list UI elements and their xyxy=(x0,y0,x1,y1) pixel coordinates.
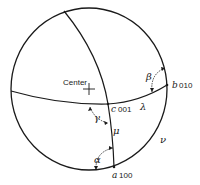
lambda-label: λ xyxy=(139,101,146,112)
pole-c-dot xyxy=(107,103,110,106)
center-label: Center xyxy=(63,78,87,87)
nu-label: ν xyxy=(160,134,166,145)
gamma-arrowhead-icon xyxy=(104,121,108,125)
pole-a-index-label: 100 xyxy=(119,171,133,180)
gamma-label: γ xyxy=(94,112,100,123)
pole-a-dot xyxy=(113,166,116,169)
stereogram: Center c 001 b 010 a 100 γ β α λ μ ν xyxy=(0,0,200,185)
pole-b-dot xyxy=(166,84,169,87)
pole-c-axis-label: c xyxy=(111,104,116,114)
beta-label: β xyxy=(145,71,152,82)
alpha-label: α xyxy=(94,154,101,165)
pole-b-index-label: 010 xyxy=(179,81,193,90)
mu-label: μ xyxy=(113,125,120,136)
pole-a-axis-label: a xyxy=(112,170,117,180)
pole-c-index-label: 001 xyxy=(118,105,132,114)
beta-arrowhead-icon-2 xyxy=(150,88,154,92)
pole-b-axis-label: b xyxy=(172,80,178,90)
